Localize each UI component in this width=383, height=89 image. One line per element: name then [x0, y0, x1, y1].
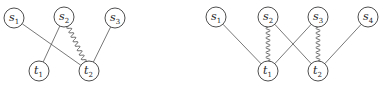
- edge-s1-t1: [223, 24, 261, 64]
- node-s3: s3: [308, 7, 328, 27]
- edge-s3-t2: [93, 27, 110, 62]
- diagram-right: s1s2s3s4t1t2: [206, 7, 378, 81]
- edge-s4-t2: [325, 24, 361, 63]
- node-t2: t2: [79, 61, 99, 81]
- diagram-left: s1s2s3t1t2: [4, 7, 125, 81]
- node-s3: s3: [105, 8, 125, 28]
- node-t1: t1: [258, 61, 278, 81]
- node-s4: s4: [358, 7, 378, 27]
- node-t1: t1: [29, 61, 49, 81]
- node-s2: s2: [54, 7, 74, 27]
- edge-s2-t1: [43, 26, 60, 62]
- node-s1: s1: [206, 7, 226, 27]
- edge-s3-t2: [316, 27, 320, 61]
- node-t2: t2: [308, 61, 328, 81]
- edge-s2-t2: [67, 26, 87, 62]
- bipartite-diagrams: s1s2s3t1t2 s1s2s3s4t1t2: [0, 0, 383, 89]
- node-s2: s2: [258, 7, 278, 27]
- node-s1: s1: [4, 8, 24, 28]
- edge-s2-t1: [266, 27, 270, 61]
